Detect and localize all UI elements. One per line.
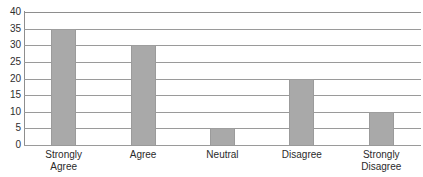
y-axis-tick-label: 20: [1, 74, 21, 84]
category-label-line1: Strongly: [363, 149, 400, 160]
y-axis-tick-label: 30: [1, 40, 21, 50]
bar: [210, 128, 235, 145]
y-axis-tick-label: 15: [1, 90, 21, 100]
category-label-line1: Neutral: [206, 149, 238, 160]
bar: [289, 79, 314, 146]
y-axis-tick-label: 10: [1, 107, 21, 117]
gridline: [24, 45, 421, 46]
plot-area: [24, 12, 421, 145]
bar: [131, 45, 156, 145]
y-axis-tick-label: 35: [1, 24, 21, 34]
category-label-line1: Disagree: [282, 149, 322, 160]
x-axis-category-label: StronglyAgree: [24, 149, 103, 173]
bar-chart-figure: 4035302520151050 StronglyAgreeAgreeNeutr…: [0, 0, 423, 177]
x-axis-category-label: StronglyDisagree: [342, 149, 421, 173]
chart-title: [0, 0, 423, 3]
gridline: [24, 29, 421, 30]
y-axis-tick-label: 40: [1, 7, 21, 17]
y-axis-tick-labels: 4035302520151050: [0, 0, 21, 177]
x-axis-category-label: Disagree: [262, 149, 341, 161]
gridline: [24, 79, 421, 80]
bar: [369, 112, 394, 145]
y-axis-tick-label: 5: [1, 123, 21, 133]
gridline: [24, 12, 421, 13]
gridline: [24, 95, 421, 96]
category-label-line2: Agree: [24, 161, 103, 173]
y-axis-tick-label: 25: [1, 57, 21, 67]
gridline: [24, 62, 421, 63]
y-axis-tick-label: 0: [1, 140, 21, 150]
gridline: [24, 112, 421, 113]
category-label-line1: Strongly: [45, 149, 82, 160]
x-axis-category-labels: StronglyAgreeAgreeNeutralDisagreeStrongl…: [24, 149, 421, 177]
gridline: [24, 145, 421, 146]
x-axis-category-label: Neutral: [183, 149, 262, 161]
x-axis-category-label: Agree: [103, 149, 182, 161]
bar: [51, 29, 76, 145]
category-label-line2: Disagree: [342, 161, 421, 173]
category-label-line1: Agree: [130, 149, 157, 160]
